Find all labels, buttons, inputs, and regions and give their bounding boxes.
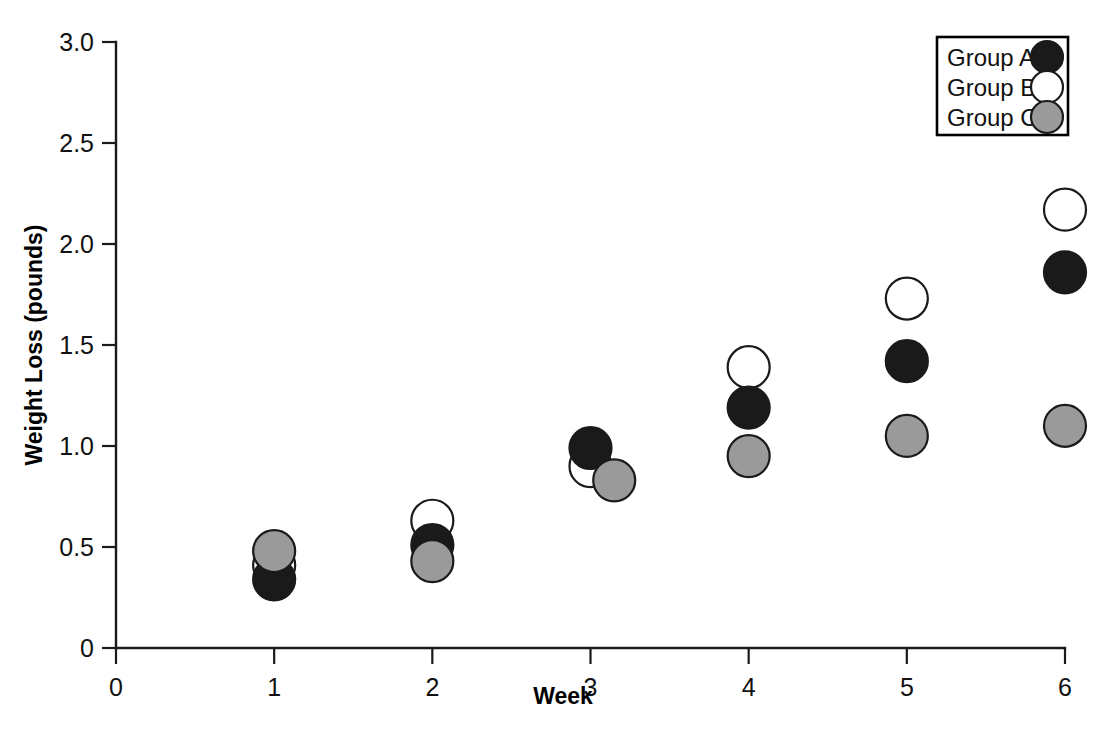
data-point bbox=[1044, 251, 1086, 293]
data-point bbox=[886, 415, 928, 457]
y-tick-label: 1.0 bbox=[59, 432, 94, 460]
x-tick-label: 6 bbox=[1058, 673, 1072, 701]
data-point bbox=[886, 340, 928, 382]
series-group-c bbox=[253, 405, 1086, 582]
legend-marker-open-circle-white bbox=[1031, 71, 1063, 103]
x-tick-label: 5 bbox=[900, 673, 914, 701]
legend-item-group-b[interactable]: Group B bbox=[947, 71, 1063, 103]
y-tick-label: 3.0 bbox=[59, 28, 94, 56]
legend-label: Group A bbox=[947, 44, 1035, 71]
legend-item-group-a[interactable]: Group A bbox=[947, 41, 1063, 73]
data-point bbox=[1044, 189, 1086, 231]
legend-marker-filled-circle-gray bbox=[1031, 101, 1063, 133]
y-tick-label: 2.5 bbox=[59, 129, 94, 157]
legend-item-group-c[interactable]: Group C bbox=[947, 101, 1063, 133]
x-tick-label: 1 bbox=[267, 673, 281, 701]
y-axis-title: Weight Loss (pounds) bbox=[21, 224, 47, 465]
x-tick-label: 2 bbox=[425, 673, 439, 701]
data-point bbox=[253, 530, 295, 572]
scatter-chart: 00.51.01.52.02.53.0 0123456 Group AGroup… bbox=[0, 0, 1105, 739]
legend-label: Group B bbox=[947, 74, 1036, 101]
data-point bbox=[886, 278, 928, 320]
x-tick-label: 0 bbox=[109, 673, 123, 701]
y-tick-label: 0.5 bbox=[59, 533, 94, 561]
data-point bbox=[728, 435, 770, 477]
y-tick-label: 0 bbox=[80, 634, 94, 662]
data-point bbox=[1044, 405, 1086, 447]
x-axis-title: Week bbox=[533, 683, 593, 709]
series-group-b bbox=[253, 189, 1086, 587]
data-series-layer bbox=[253, 189, 1086, 601]
data-point bbox=[593, 459, 635, 501]
y-tick-label: 1.5 bbox=[59, 331, 94, 359]
legend-label: Group C bbox=[947, 104, 1038, 131]
series-group-a bbox=[253, 251, 1086, 600]
x-tick-label: 4 bbox=[742, 673, 756, 701]
y-tick-label: 2.0 bbox=[59, 230, 94, 258]
plot-area: 00.51.01.52.02.53.0 0123456 Group AGroup… bbox=[0, 0, 1105, 739]
data-point bbox=[728, 346, 770, 388]
legend-marker-filled-circle-black bbox=[1031, 41, 1063, 73]
legend: Group AGroup BGroup C bbox=[937, 37, 1068, 135]
data-point bbox=[411, 540, 453, 582]
y-axis: 00.51.01.52.02.53.0 bbox=[59, 28, 116, 662]
data-point bbox=[728, 387, 770, 429]
